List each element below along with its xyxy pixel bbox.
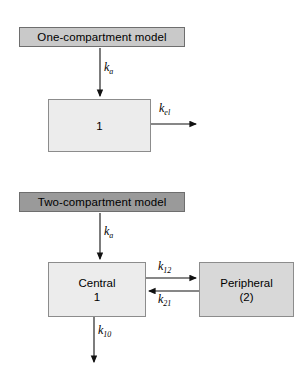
central-number: 1: [94, 290, 100, 304]
two-compartment-title-bar: Two-compartment model: [19, 192, 185, 212]
rate-label-k10: k10: [98, 323, 111, 339]
rate-label-k12: k12: [158, 259, 171, 275]
peripheral-number: (2): [239, 290, 253, 304]
one-compartment-title-text: One-compartment model: [37, 31, 166, 43]
central-name: Central: [78, 276, 115, 290]
rate-subscript-kel: el: [164, 108, 170, 117]
compartment-box-one: 1: [48, 99, 151, 152]
pk-compartment-diagram: One-compartment model 1 ka kel Two-compa…: [0, 0, 305, 377]
rate-label-ka-one-compartment: ka: [104, 60, 113, 76]
compartment-one-label: 1: [96, 119, 102, 133]
rate-label-kel: kel: [159, 101, 170, 117]
rate-subscript-ka-one: a: [109, 67, 113, 76]
one-compartment-title-bar: One-compartment model: [19, 27, 185, 47]
peripheral-name: Peripheral: [220, 276, 272, 290]
rate-subscript-ka-two: a: [109, 231, 113, 240]
rate-label-k21: k21: [158, 292, 171, 308]
rate-label-ka-two-compartment: ka: [104, 224, 113, 240]
two-compartment-title-text: Two-compartment model: [38, 196, 167, 208]
rate-subscript-k21: 21: [163, 299, 171, 308]
rate-subscript-k12: 12: [163, 266, 171, 275]
arrow-layer: [0, 0, 305, 377]
compartment-box-peripheral: Peripheral (2): [199, 262, 294, 317]
rate-subscript-k10: 10: [103, 330, 111, 339]
compartment-box-central: Central 1: [48, 262, 146, 317]
